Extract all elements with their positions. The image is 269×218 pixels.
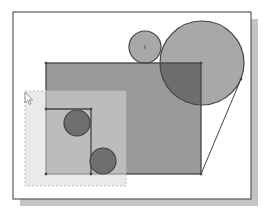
vertex-point xyxy=(240,78,242,80)
sketch-canvas[interactable] xyxy=(0,0,269,218)
inner-circle-upper[interactable] xyxy=(64,110,90,136)
sketch-drawing[interactable] xyxy=(0,0,269,218)
vertex-point xyxy=(90,173,92,175)
vertex-point xyxy=(45,62,47,64)
vertex-point xyxy=(45,173,47,175)
vertex-point xyxy=(200,62,202,64)
inner-circle-lower[interactable] xyxy=(90,148,116,174)
vertex-point xyxy=(200,173,202,175)
vertex-point xyxy=(90,108,92,110)
vertex-point xyxy=(45,108,47,110)
